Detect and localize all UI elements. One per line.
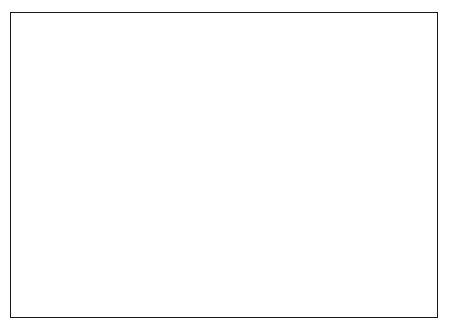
chart-frame-border (10, 12, 438, 318)
chart-container: .75.50.25 0/10010/9020/8030/7040/6050/50… (0, 0, 449, 329)
